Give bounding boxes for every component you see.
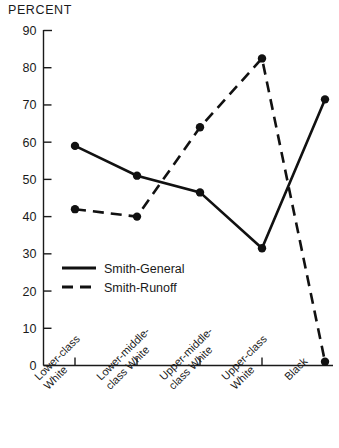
data-series-layer	[71, 54, 329, 366]
series-line-1	[75, 99, 325, 248]
data-point-marker	[321, 358, 329, 366]
y-tick-label: 10	[23, 322, 37, 336]
y-tick-label: 80	[23, 61, 37, 75]
data-point-marker	[196, 188, 204, 196]
y-tick-label: 30	[23, 247, 37, 261]
chart-legend: Smith-GeneralSmith-Runoff	[62, 262, 185, 295]
chart-container: PERCENT 0102030405060708090 Smith-Genera…	[0, 0, 339, 448]
data-point-marker	[258, 244, 266, 252]
y-tick-label: 20	[23, 285, 37, 299]
legend-label: Smith-General	[104, 262, 185, 276]
data-point-marker	[196, 123, 204, 131]
data-point-marker	[133, 171, 141, 179]
series-line-2	[75, 58, 325, 361]
data-point-marker	[71, 142, 79, 150]
legend-label: Smith-Runoff	[104, 281, 177, 295]
y-tick-label: 60	[23, 136, 37, 150]
y-tick-label: 40	[23, 210, 37, 224]
data-point-marker	[133, 212, 141, 220]
y-tick-label: 50	[23, 173, 37, 187]
data-point-marker	[321, 95, 329, 103]
y-axis-ticks: 0102030405060708090	[23, 24, 52, 373]
y-tick-label: 90	[23, 24, 37, 38]
data-point-marker	[258, 54, 266, 62]
y-tick-label: 70	[23, 98, 37, 112]
data-point-marker	[71, 205, 79, 213]
